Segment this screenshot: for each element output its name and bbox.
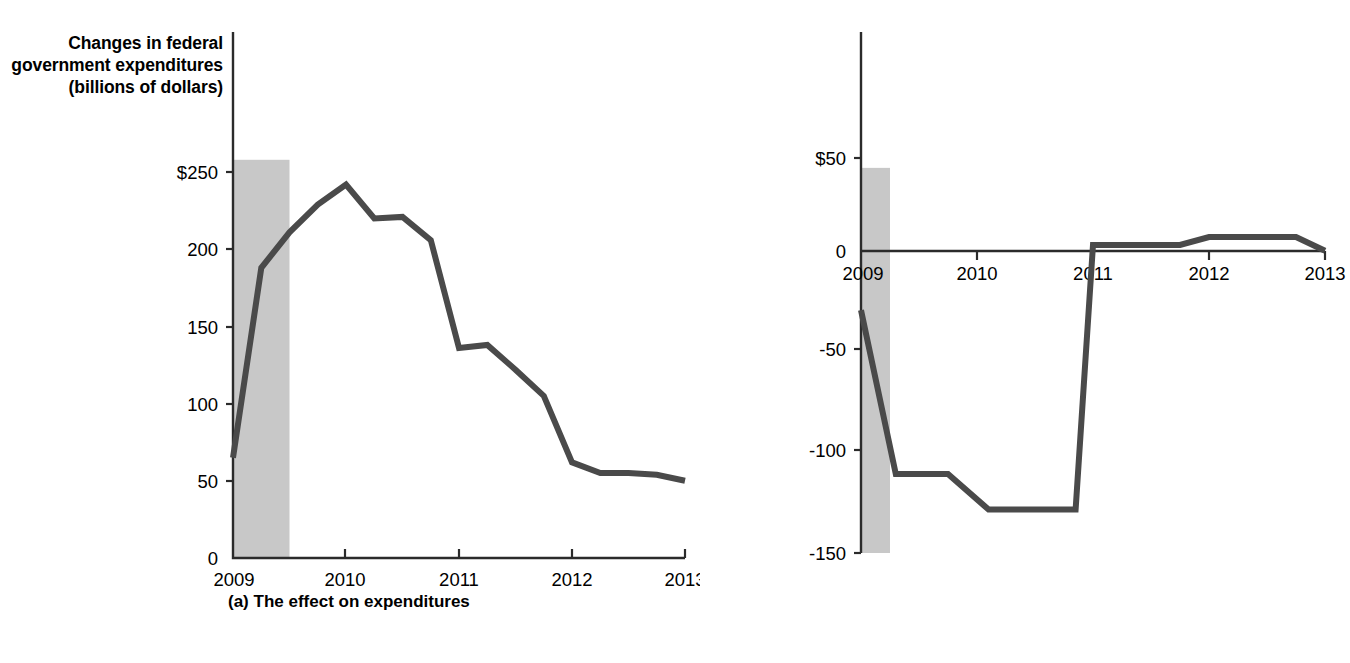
recession-shaded-band — [861, 168, 890, 553]
y-tick-label-0: 0 — [208, 548, 218, 569]
y-tick-label-200: 200 — [187, 239, 218, 260]
x-tick-label-2013: 2013 — [664, 569, 700, 590]
x-tick-label-2010: 2010 — [324, 569, 365, 590]
panel-revenue: Changes in federal government revenue (b… — [700, 0, 1350, 663]
x-tick-label-2010: 2010 — [956, 263, 997, 284]
y-tick-label-neg50: -50 — [819, 339, 846, 360]
recession-shaded-band — [233, 160, 290, 558]
y-tick-label-250: $250 — [177, 162, 218, 183]
x-tick-label-2009: 2009 — [213, 569, 254, 590]
y-tick-label-50: $50 — [815, 148, 846, 169]
y-tick-label-100: 100 — [187, 394, 218, 415]
plot-area-revenue: $50 0 -50 -100 -150 2009 2010 2011 2012 … — [700, 0, 1350, 600]
panel-expenditures: Changes in federal government expenditur… — [0, 0, 700, 663]
panel-caption-a: (a) The effect on expenditures — [228, 592, 470, 612]
y-tick-label-neg100: -100 — [809, 440, 846, 461]
y-tick-label-50: 50 — [197, 471, 218, 492]
data-line-revenue — [861, 237, 1325, 510]
two-panel-line-chart-figure: Changes in federal government expenditur… — [0, 0, 1350, 663]
axis-lines — [233, 32, 685, 558]
y-tick-label-neg150: -150 — [809, 543, 846, 564]
x-tick-label-2009: 2009 — [842, 263, 883, 284]
plot-area-expenditures: $250 200 150 100 50 0 2009 2010 2011 201… — [0, 0, 700, 600]
data-line-expenditures — [233, 185, 685, 481]
x-tick-marks — [977, 251, 1325, 260]
x-tick-marks — [345, 549, 685, 558]
x-tick-label-2012: 2012 — [1188, 263, 1229, 284]
y-tick-label-150: 150 — [187, 317, 218, 338]
x-tick-label-2013: 2013 — [1304, 263, 1345, 284]
x-tick-label-2012: 2012 — [551, 569, 592, 590]
y-tick-label-0: 0 — [836, 241, 846, 262]
x-tick-label-2011: 2011 — [439, 569, 479, 590]
